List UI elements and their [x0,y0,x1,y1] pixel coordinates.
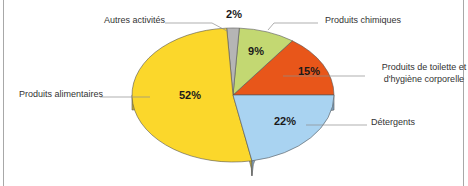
leader-line-chimiques [268,23,318,30]
pie-chart: 15% 9% 2% 52% 22% Produits de toilette e… [0,0,468,186]
label-detergents: Détergents [371,117,416,127]
pie-slices [132,28,334,162]
label-alimentaires: Produits alimentaires [19,89,104,99]
label-chimiques: Produits chimiques [325,15,402,25]
pct-label-autres: 2% [226,8,242,20]
pct-label-chimiques: 9% [248,45,264,57]
label-autres: Autres activités [104,15,166,25]
label-toilette-line1: Produits de toilette et [382,62,467,72]
pct-label-detergents: 22% [274,115,296,127]
pct-label-toilette: 15% [298,65,320,77]
label-toilette-line2: d'hygiène corporelle [384,74,464,84]
pct-label-alimentaires: 52% [179,89,201,101]
